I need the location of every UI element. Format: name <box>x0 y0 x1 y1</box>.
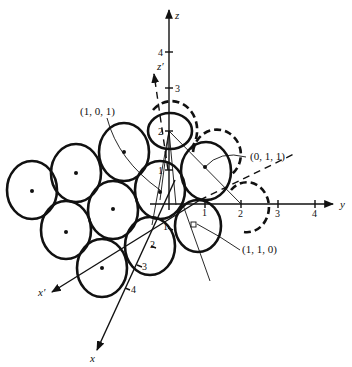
dashed-sphere <box>193 130 241 174</box>
x-axis-label: x <box>89 352 95 364</box>
label-point-110: (1, 1, 0) <box>242 243 277 256</box>
x-tick-3: 3 <box>142 261 147 272</box>
label-point-011: (0, 1, 1) <box>250 150 285 163</box>
crystal-lattice-diagram: 1 2 3 4 z z′ 1 2 3 4 y x′ 1 2 3 4 <box>0 0 352 367</box>
y-axis-label: y <box>339 198 345 210</box>
z-tick-4: 4 <box>158 47 163 58</box>
x-prime-label: x′ <box>37 286 46 298</box>
y-tick-4: 4 <box>312 208 317 219</box>
y-tick-2: 2 <box>238 208 243 219</box>
construction-lines <box>152 131 241 281</box>
z-axis-label: z <box>174 9 180 21</box>
label-point-101: (1, 0, 1) <box>80 105 115 118</box>
dashed-sphere <box>231 182 269 232</box>
sphere <box>175 200 221 252</box>
z-axis: 1 2 3 4 z <box>158 9 180 210</box>
dashed-spheres <box>153 101 269 232</box>
x-tick-2: 2 <box>150 239 155 250</box>
x-tick-1: 1 <box>163 221 168 232</box>
z-tick-3: 3 <box>175 83 180 94</box>
x-tick-4: 4 <box>131 284 136 295</box>
z-prime-label: z′ <box>156 60 164 72</box>
y-tick-3: 3 <box>275 208 280 219</box>
y-tick-1: 1 <box>202 207 207 218</box>
